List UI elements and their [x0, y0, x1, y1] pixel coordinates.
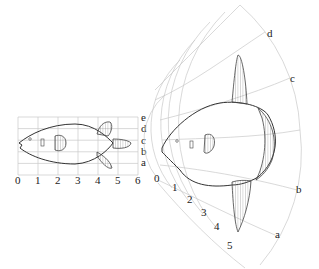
- arc-tick-d: d: [267, 27, 273, 39]
- y-tick-a: a: [141, 156, 146, 168]
- r-tick-1: 1: [172, 181, 178, 193]
- x-tick-5: 5: [115, 174, 121, 186]
- arc-tick-a: a: [275, 228, 280, 240]
- x-tick-6: 6: [135, 174, 141, 186]
- x-tick-2: 2: [55, 174, 61, 186]
- arc-tick-c: c: [290, 72, 295, 84]
- r-tick-2: 2: [187, 193, 193, 205]
- left-x-axis-labels: 0 1 2 3 4 5 6: [15, 174, 141, 186]
- x-tick-1: 1: [35, 174, 41, 186]
- x-tick-4: 4: [95, 174, 101, 186]
- r-tick-3: 3: [201, 206, 207, 218]
- r-tick-4: 4: [214, 220, 220, 232]
- x-tick-3: 3: [75, 174, 81, 186]
- arc-tick-b: b: [296, 183, 302, 195]
- transformation-diagram: 0 1 2 3 4 5 6 e d c b a: [0, 0, 319, 269]
- x-tick-0: 0: [15, 174, 21, 186]
- r-tick-5: 5: [227, 239, 233, 251]
- r-tick-0: 0: [154, 172, 160, 184]
- sunfish-outline: [162, 55, 275, 232]
